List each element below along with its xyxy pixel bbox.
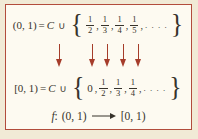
comma-separator: , <box>110 83 113 94</box>
fraction: 1 4 <box>115 15 123 35</box>
comma-separator: , <box>111 20 114 31</box>
fraction-denominator: 2 <box>101 89 105 98</box>
union-symbol: ∪ <box>60 83 67 94</box>
fraction-numerator: 1 <box>114 78 122 88</box>
ellipsis: . . . . <box>145 20 168 30</box>
fraction: 1 2 <box>86 15 94 35</box>
function-codomain: [0, 1) <box>121 110 146 122</box>
close-brace: } <box>169 74 181 101</box>
fraction-numerator: 1 <box>101 15 109 25</box>
fraction-numerator: 1 <box>99 78 107 88</box>
fraction-denominator: 2 <box>88 26 92 35</box>
open-brace: { <box>72 74 84 101</box>
function-domain: (0, 1) <box>62 110 87 122</box>
close-brace: } <box>171 11 183 38</box>
equals-sign: = <box>40 82 46 94</box>
long-right-arrow-icon <box>92 110 116 122</box>
cantor-set-symbol: C <box>48 82 55 94</box>
interval-open: (0, 1) <box>13 19 37 31</box>
comma-separator: , <box>140 20 143 31</box>
down-arrow-icon <box>120 44 127 69</box>
figure: (0, 1) = C ∪ { 1 2 , 1 3 , 1 4 , 1 5 <box>0 0 198 139</box>
cantor-set-symbol: C <box>47 19 54 31</box>
fraction-denominator: 3 <box>103 26 107 35</box>
union-symbol: ∪ <box>58 20 65 31</box>
down-arrow-icon <box>89 44 96 69</box>
fraction-denominator: 5 <box>132 26 136 35</box>
fraction: 1 3 <box>114 78 122 98</box>
fraction: 1 3 <box>101 15 109 35</box>
fraction: 1 2 <box>99 78 107 98</box>
fraction-denominator: 4 <box>117 26 121 35</box>
fraction: 1 5 <box>130 15 138 35</box>
top-equation: (0, 1) = C ∪ { 1 2 , 1 3 , 1 4 , 1 5 <box>12 10 185 40</box>
fraction-numerator: 1 <box>86 15 94 25</box>
bottom-equation: [0, 1) = C ∪ { 0 , 1 2 , 1 3 , 1 4 , . .… <box>13 73 184 103</box>
fraction-denominator: 3 <box>116 89 120 98</box>
down-arrow-icon <box>135 44 142 69</box>
figure-panel: (0, 1) = C ∪ { 1 2 , 1 3 , 1 4 , 1 5 <box>5 4 192 130</box>
fraction: 1 4 <box>129 78 137 98</box>
fraction-denominator: 4 <box>131 89 135 98</box>
fraction-numerator: 1 <box>115 15 123 25</box>
down-arrow-icon <box>104 44 111 69</box>
comma-separator: , <box>139 83 142 94</box>
zero-element: 0 <box>87 82 93 94</box>
function-line: f: (0, 1) [0, 1) <box>49 107 147 125</box>
down-arrow-icon <box>56 44 63 69</box>
comma-separator: , <box>95 83 98 94</box>
comma-separator: , <box>124 83 127 94</box>
comma-separator: , <box>96 20 99 31</box>
interval-half-open: [0, 1) <box>14 82 38 94</box>
comma-separator: , <box>126 20 129 31</box>
open-brace: { <box>71 11 83 38</box>
equals-sign: = <box>39 19 45 31</box>
fraction-numerator: 1 <box>129 78 137 88</box>
mapping-arrows <box>8 44 189 69</box>
fraction-numerator: 1 <box>130 15 138 25</box>
ellipsis: . . . . <box>144 83 167 93</box>
colon: : <box>55 110 58 122</box>
